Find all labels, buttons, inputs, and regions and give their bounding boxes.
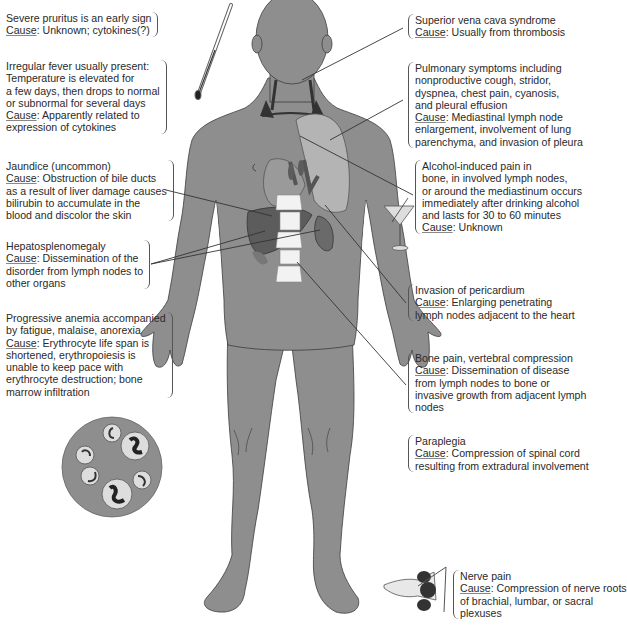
symptom-text: Alcohol-induced pain in <box>422 160 582 172</box>
symptom-text: Superior vena cava syndrome <box>415 14 565 26</box>
cause-text: parenchyma, and invasion of pleura <box>415 136 583 148</box>
cause-text: other organs <box>6 277 143 289</box>
cause-text: Cause: Mediastinal lymph node <box>415 111 583 123</box>
cause-text: erythrocyte destruction; bone <box>6 373 166 385</box>
cause-text: Cause: Dissemination of the <box>6 252 143 264</box>
cause-text: Cause: Unknown; cytokines(?) <box>6 24 151 36</box>
cause-text: Cause: Dissemination of disease <box>415 364 586 376</box>
symptom-text: immediately after drinking alcohol <box>422 197 582 209</box>
cause-text: Cause: Usually from thrombosis <box>415 26 565 38</box>
cause-text: Cause: Obstruction of bile ducts <box>6 172 167 184</box>
symptom-text: Paraplegia <box>415 435 589 447</box>
annotation-jaundice: Jaundice (uncommon) Cause: Obstruction o… <box>6 160 174 221</box>
annotation-anemia: Progressive anemia accompanied by fatigu… <box>6 312 173 398</box>
cause-text: plexuses <box>460 607 627 619</box>
symptom-text: bone, in involved lymph nodes, <box>422 172 582 184</box>
cause-text: disorder from lymph nodes to <box>6 265 143 277</box>
cause-text: Cause: Compression of nerve roots <box>460 582 627 594</box>
annotation-svc: Superior vena cava syndrome Cause: Usual… <box>408 14 565 39</box>
right-leg <box>204 330 288 612</box>
symptom-text: Invasion of pericardium <box>415 284 575 296</box>
cause-text: blood and discolor the skin <box>6 209 167 221</box>
symptom-text: Jaundice (uncommon) <box>6 160 167 172</box>
cause-text: marrow infiltration <box>6 386 166 398</box>
annotation-pruritus: Severe pruritus is an early sign Cause: … <box>6 12 158 37</box>
cause-text: Cause: Compression of spinal cord <box>415 447 589 459</box>
cause-text: bilirubin to accumulate in the <box>6 197 167 209</box>
symptom-text: Severe pruritus is an early sign <box>6 12 151 24</box>
cause-text: invasive growth from adjacent lymph <box>415 389 586 401</box>
annotation-nerve-pain: Nerve pain Cause: Compression of nerve r… <box>453 570 627 619</box>
cause-text: nodes <box>415 401 586 413</box>
symptom-text: and lasts for 30 to 60 minutes <box>422 209 582 221</box>
annotation-pericardium: Invasion of pericardium Cause: Enlarging… <box>408 284 575 321</box>
symptom-text: Pulmonary symptoms including <box>415 62 583 74</box>
symptom-text: Irregular fever usually present: <box>6 60 160 72</box>
left-ear <box>252 35 262 53</box>
right-ear <box>322 35 332 53</box>
cause-text: enlargement, involvement of lung <box>415 123 583 135</box>
annotation-paraplegia: Paraplegia Cause: Compression of spinal … <box>408 435 589 472</box>
cause-text: shortened, erythropoiesis is <box>6 349 166 361</box>
cause-text: Cause: Erythrocyte life span is <box>6 337 166 349</box>
cause-text: lymph nodes adjacent to the heart <box>415 309 575 321</box>
symptom-text: Nerve pain <box>460 570 627 582</box>
cause-text: resulting from extradural involvement <box>415 460 589 472</box>
cause-text: unable to keep pace with <box>6 361 166 373</box>
cause-text: from lymph nodes to bone or <box>415 377 586 389</box>
symptom-text: by fatigue, malaise, anorexia <box>6 324 166 336</box>
left-leg <box>290 330 359 613</box>
cause-text: Cause: Apparently related to <box>6 109 160 121</box>
symptom-text: Hepatosplenomegaly <box>6 240 143 252</box>
thermometer-icon <box>195 5 231 100</box>
annotation-pulmonary: Pulmonary symptoms including nonproducti… <box>408 62 583 148</box>
blood-cells-icon <box>62 417 162 517</box>
symptom-text: nonproductive cough, stridor, <box>415 74 583 86</box>
symptom-text: or around the mediastinum occurs <box>422 185 582 197</box>
nerve-root-icon <box>384 567 446 612</box>
cause-text: Cause: Enlarging penetrating <box>415 296 575 308</box>
symptom-text: a few days, then drops to normal <box>6 85 160 97</box>
cause-text: Cause: Unknown <box>422 221 582 233</box>
symptom-text: and pleural effusion <box>415 99 583 111</box>
cause-text: expression of cytokines <box>6 121 160 133</box>
head <box>256 0 328 84</box>
symptom-text: Temperature is elevated for <box>6 72 160 84</box>
symptom-text: Progressive anemia accompanied <box>6 312 166 324</box>
annotation-hepatosplenomegaly: Hepatosplenomegaly Cause: Dissemination … <box>6 240 150 289</box>
cause-text: as a result of liver damage causes <box>6 185 167 197</box>
human-body <box>141 0 441 613</box>
annotation-bone: Bone pain, vertebral compression Cause: … <box>408 352 586 413</box>
annotation-alcohol: Alcohol-induced pain in bone, in involve… <box>415 160 582 234</box>
symptom-text: or subnormal for several days <box>6 97 160 109</box>
symptom-text: dyspnea, chest pain, cyanosis, <box>415 87 583 99</box>
symptom-text: Bone pain, vertebral compression <box>415 352 586 364</box>
annotation-fever: Irregular fever usually present: Tempera… <box>6 60 167 134</box>
cause-text: of brachial, lumbar, or sacral <box>460 595 627 607</box>
